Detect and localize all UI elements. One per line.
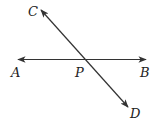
label-c: C xyxy=(28,4,38,19)
label-p: P xyxy=(74,65,84,80)
label-b: B xyxy=(139,65,150,80)
label-a: A xyxy=(10,65,20,80)
line-cd xyxy=(41,10,128,107)
label-d: D xyxy=(129,106,141,121)
diagram-canvas: C A P B D xyxy=(0,0,157,123)
